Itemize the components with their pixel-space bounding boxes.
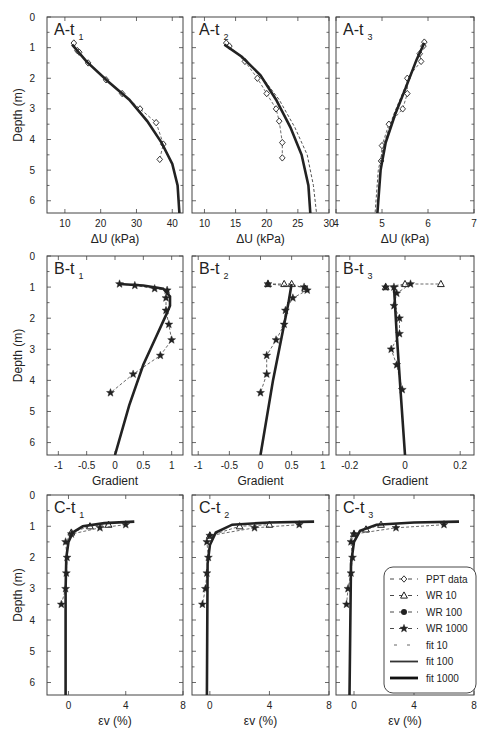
x-axis-label: ΔU (kPa) bbox=[381, 232, 430, 246]
x-tick-label: -0.5 bbox=[221, 460, 239, 471]
y-tick-label: 3 bbox=[29, 103, 35, 114]
x-tick-label: 20 bbox=[261, 218, 273, 229]
x-tick-label: 0.2 bbox=[453, 460, 467, 471]
legend-label: WR 1000 bbox=[426, 623, 468, 634]
y-tick-label: 1 bbox=[29, 42, 35, 53]
x-tick-label: -1 bbox=[54, 460, 63, 471]
x-tick-label: 8 bbox=[471, 700, 477, 711]
y-tick-label: 2 bbox=[29, 552, 35, 563]
x-tick-label: -0.2 bbox=[341, 460, 359, 471]
x-tick-label: 1 bbox=[320, 460, 326, 471]
x-tick-label: 20 bbox=[95, 218, 107, 229]
y-tick-label: 6 bbox=[29, 677, 35, 688]
x-tick-label: 0 bbox=[258, 460, 264, 471]
y-tick-label: 1 bbox=[29, 521, 35, 532]
x-axis-label: εv (%) bbox=[244, 714, 277, 728]
y-tick-label: 3 bbox=[29, 583, 35, 594]
x-axis-label: εv (%) bbox=[388, 714, 421, 728]
panel-a-t1: 0123456Depth (m)10203040ΔU (kPa)A-t1 bbox=[11, 12, 183, 247]
y-tick-label: 4 bbox=[29, 134, 35, 145]
y-axis-label: Depth (m) bbox=[11, 568, 25, 621]
x-tick-label: 10 bbox=[59, 218, 71, 229]
plot-frame bbox=[47, 17, 183, 213]
x-tick-label: -0.5 bbox=[78, 460, 96, 471]
x-tick-label: 4 bbox=[123, 700, 129, 711]
plot-frame bbox=[192, 256, 329, 455]
x-tick-label: 0 bbox=[112, 460, 118, 471]
x-axis-label: εv (%) bbox=[98, 714, 131, 728]
chart-legend: PPT dataWR 10WR 100WR 1000fit 10fit 100f… bbox=[384, 567, 476, 693]
x-tick-label: 1 bbox=[169, 460, 175, 471]
legend-label: WR 10 bbox=[426, 590, 457, 601]
legend-label: PPT data bbox=[426, 574, 468, 585]
x-tick-label: 4 bbox=[267, 700, 273, 711]
panel-a-t3: 4567ΔU (kPa)A-t3 bbox=[333, 17, 477, 246]
x-tick-label: 0 bbox=[402, 460, 408, 471]
y-tick-label: 6 bbox=[29, 195, 35, 206]
x-tick-label: -1 bbox=[194, 460, 203, 471]
y-tick-label: 5 bbox=[29, 406, 35, 417]
panel-c-t1: 0123456Depth (m)048εv (%)C-t1 bbox=[11, 490, 186, 729]
x-tick-label: 0.5 bbox=[136, 460, 150, 471]
x-tick-label: 6 bbox=[425, 218, 431, 229]
figure-canvas: 0123456Depth (m)10203040ΔU (kPa)A-t11015… bbox=[0, 0, 491, 743]
y-tick-label: 2 bbox=[29, 313, 35, 324]
x-tick-label: 30 bbox=[131, 218, 143, 229]
x-tick-label: 0 bbox=[207, 700, 213, 711]
panel-b-t2: -1-0.500.51GradientB-t2 bbox=[192, 256, 329, 488]
y-tick-label: 5 bbox=[29, 165, 35, 176]
panel-c-t2: 048εv (%)C-t2 bbox=[192, 495, 332, 728]
x-tick-label: 4 bbox=[411, 700, 417, 711]
x-tick-label: 15 bbox=[230, 218, 242, 229]
x-axis-label: ΔU (kPa) bbox=[236, 232, 285, 246]
plot-frame bbox=[47, 495, 183, 695]
legend-label: fit 1000 bbox=[426, 673, 459, 684]
y-tick-label: 0 bbox=[29, 490, 35, 501]
x-tick-label: 8 bbox=[326, 700, 332, 711]
x-axis-label: Gradient bbox=[92, 474, 139, 488]
legend-label: fit 100 bbox=[426, 656, 454, 667]
x-tick-label: 5 bbox=[379, 218, 385, 229]
x-tick-label: 4 bbox=[333, 218, 339, 229]
x-tick-label: 8 bbox=[180, 700, 186, 711]
x-axis-label: ΔU (kPa) bbox=[91, 232, 140, 246]
y-tick-label: 3 bbox=[29, 344, 35, 355]
x-tick-label: 7 bbox=[471, 218, 477, 229]
x-tick-label: 0 bbox=[351, 700, 357, 711]
legend-label: fit 10 bbox=[426, 640, 448, 651]
plot-frame bbox=[336, 17, 474, 213]
panel-b-t3: -0.200.2GradientB-t3 bbox=[336, 256, 474, 488]
y-tick-label: 1 bbox=[29, 282, 35, 293]
panel-b-t1: 0123456Depth (m)-1-0.500.51GradientB-t1 bbox=[11, 251, 183, 489]
y-tick-label: 5 bbox=[29, 646, 35, 657]
x-tick-label: 0.5 bbox=[285, 460, 299, 471]
y-tick-label: 0 bbox=[29, 12, 35, 23]
circle-legend-icon bbox=[401, 609, 407, 615]
y-axis-label: Depth (m) bbox=[11, 329, 25, 382]
y-tick-label: 2 bbox=[29, 73, 35, 84]
y-axis-label: Depth (m) bbox=[11, 88, 25, 141]
x-tick-label: 10 bbox=[199, 218, 211, 229]
y-tick-label: 4 bbox=[29, 615, 35, 626]
y-tick-label: 4 bbox=[29, 375, 35, 386]
legend-label: WR 100 bbox=[426, 607, 463, 618]
x-tick-label: 25 bbox=[292, 218, 304, 229]
panel-a-t2: 1015202530ΔU (kPa)A-t2 bbox=[192, 17, 335, 246]
x-tick-label: 0 bbox=[66, 700, 72, 711]
x-axis-label: Gradient bbox=[237, 474, 284, 488]
y-tick-label: 6 bbox=[29, 437, 35, 448]
x-tick-label: 40 bbox=[167, 218, 179, 229]
x-axis-label: Gradient bbox=[382, 474, 429, 488]
y-tick-label: 0 bbox=[29, 251, 35, 262]
